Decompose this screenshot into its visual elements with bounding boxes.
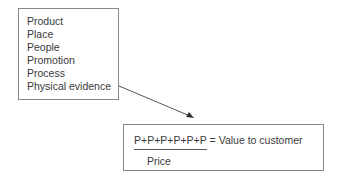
formula-equals-text: = Value to customer — [207, 134, 303, 146]
formula-numerator: P+P+P+P+P+P — [134, 134, 207, 150]
formula-numerator-line: P+P+P+P+P+P = Value to customer — [134, 134, 303, 150]
value-formula-box: P+P+P+P+P+P = Value to customer Price — [123, 124, 324, 171]
formula-denominator: Price — [147, 155, 171, 167]
